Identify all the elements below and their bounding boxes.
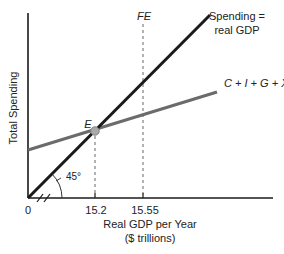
- equilibrium-label: E: [84, 118, 92, 130]
- equilibrium-point: [91, 127, 100, 136]
- chart: Total Spending 0 15.2 15.55 Real GDP per…: [0, 0, 284, 254]
- spending-equals-gdp-line: [28, 15, 210, 198]
- spending-line-label-1: Spending =: [209, 10, 265, 22]
- angle-arc: [52, 174, 62, 198]
- tick-label-15-2: 15.2: [85, 204, 106, 216]
- tick-label-0: 0: [25, 204, 31, 216]
- y-axis-label: Total Spending: [7, 72, 19, 145]
- spending-line-label-2: real GDP: [214, 24, 259, 36]
- tick-label-15-55: 15.55: [131, 204, 159, 216]
- aggregate-expenditure-label: C + I + G + X: [224, 77, 284, 89]
- x-axis-label: Real GDP per Year: [103, 218, 197, 230]
- x-axis-units: ($ trillions): [125, 232, 176, 244]
- angle-label: 45°: [66, 171, 81, 182]
- fe-label: FE: [137, 10, 152, 22]
- aggregate-expenditure-line: [28, 92, 217, 150]
